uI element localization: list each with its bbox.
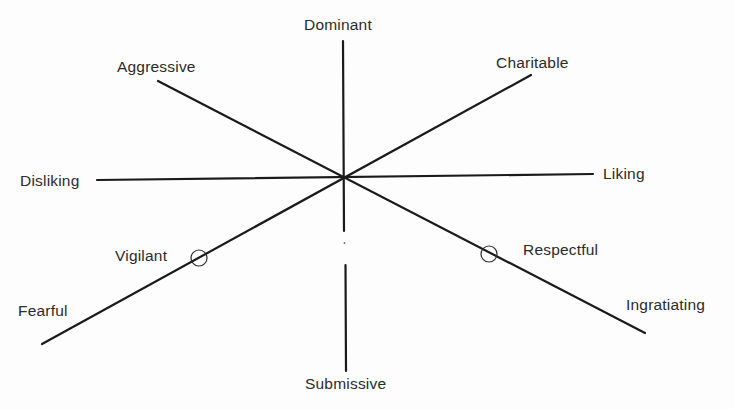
axis-dominant-upper (343, 41, 344, 231)
axis-submissive-lower (346, 265, 347, 371)
label-dominant: Dominant (304, 17, 372, 33)
axis-gap-speck (344, 242, 346, 244)
label-disliking: Disliking (20, 173, 80, 189)
diagram-axes (0, 0, 735, 409)
circumplex-diagram: Dominant Aggressive Charitable Disliking… (0, 0, 735, 409)
label-liking: Liking (603, 166, 645, 182)
label-aggressive: Aggressive (117, 59, 196, 75)
label-charitable: Charitable (496, 55, 569, 71)
label-respectful: Respectful (523, 242, 598, 258)
axis-fearful-charitable (42, 75, 531, 344)
axis-aggressive-ingratiating (158, 81, 645, 333)
label-vigilant: Vigilant (115, 248, 167, 264)
label-fearful: Fearful (18, 303, 68, 319)
label-submissive: Submissive (305, 376, 386, 392)
label-ingratiating: Ingratiating (626, 297, 705, 313)
